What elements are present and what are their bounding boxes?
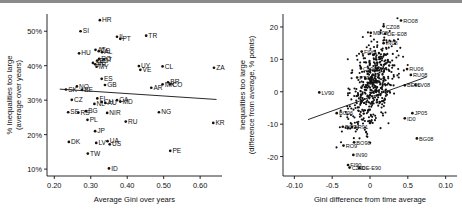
data-point — [94, 130, 97, 133]
x-tick-label: 0 — [368, 181, 372, 190]
data-point-label: PT — [122, 35, 130, 42]
data-point — [116, 35, 119, 38]
data-point — [416, 137, 419, 140]
data-point-label: NIR — [109, 109, 121, 116]
y-tick-label: 20 — [270, 23, 278, 32]
x-tick-label: 0.5 — [403, 181, 413, 190]
data-point — [81, 88, 84, 91]
data-point-label: JP05 — [415, 110, 428, 116]
data-point — [150, 86, 153, 89]
data-point-label: US — [112, 140, 122, 147]
data-point-label: HU — [81, 49, 91, 56]
y-tick-label: 0 — [274, 88, 278, 97]
data-point — [341, 125, 344, 128]
data-point-label: TW — [90, 150, 101, 157]
data-point-label: RO08 — [403, 18, 418, 24]
data-point-label: BO98 — [356, 140, 370, 146]
data-point — [356, 76, 359, 79]
data-point — [318, 91, 321, 94]
data-point — [212, 122, 215, 125]
data-point-label: KR — [215, 119, 224, 126]
data-point — [95, 142, 98, 145]
data-point-label: SK — [68, 86, 77, 93]
data-point-label: CL96 — [363, 66, 376, 72]
data-point — [414, 84, 417, 87]
x-tick-label: 0.30 — [84, 181, 98, 190]
data-point — [139, 68, 142, 71]
left-plot-svg: 0.200.300.400.500.6010%20%30%40%50%Avera… — [0, 0, 231, 214]
y-tick-label: -10 — [267, 120, 278, 129]
x-tick-label: 0.60 — [193, 181, 207, 190]
data-point-label: TR — [148, 32, 157, 39]
data-point — [360, 50, 363, 53]
data-point-label: JP — [97, 127, 105, 134]
data-point — [124, 120, 127, 123]
y-tick-label: 10 — [270, 55, 278, 64]
data-point-label: ZA — [216, 64, 225, 71]
y-axis-title-line: Inequalities too large — [238, 60, 247, 130]
right-plot-svg: -0.10-0.500.50.1020100-10-20Gini differe… — [231, 0, 462, 214]
data-point-label: AR91 — [354, 124, 368, 130]
data-point-label: MD — [122, 98, 132, 105]
x-tick-label: 0.50 — [156, 181, 170, 190]
data-point — [350, 126, 353, 129]
data-point — [101, 51, 104, 54]
data-point — [108, 167, 111, 170]
data-point — [100, 77, 103, 80]
data-point — [342, 144, 345, 147]
data-point-label: BE — [84, 86, 93, 93]
data-point — [369, 31, 372, 34]
data-point — [97, 50, 100, 53]
data-point — [347, 164, 350, 167]
data-point — [138, 65, 141, 68]
data-point — [400, 19, 403, 22]
data-point — [411, 112, 414, 115]
data-point — [78, 52, 81, 55]
data-point-label: SI — [83, 27, 89, 34]
data-point-label: BG08 — [419, 136, 433, 142]
data-point — [86, 152, 89, 155]
data-point — [384, 32, 387, 35]
y-axis-title-line: % Inequalities too large — [5, 56, 14, 135]
y-tick-label: -20 — [267, 153, 278, 162]
data-point — [106, 112, 109, 115]
data-point-label: AR — [153, 84, 162, 91]
data-point — [145, 34, 148, 37]
data-point — [403, 117, 406, 120]
axis-lines — [47, 14, 222, 176]
x-axis-title: Average Gini over years — [94, 195, 176, 204]
data-point-label: AU — [108, 99, 117, 106]
y-axis-title-line: (average over years) — [14, 59, 23, 130]
data-point — [93, 103, 96, 106]
y-tick-label: 50% — [27, 27, 42, 36]
data-point — [77, 111, 80, 114]
data-point-label: IN90 — [356, 152, 368, 158]
data-point — [335, 112, 338, 115]
data-point-label: DK — [71, 138, 81, 145]
data-point-label: DE-E08 — [387, 31, 407, 37]
y-axis-title-line: (difference from average, % points) — [247, 35, 256, 154]
data-point-label: RO9 — [346, 143, 358, 149]
data-point-label: PE — [172, 147, 181, 154]
data-point — [169, 149, 172, 152]
data-point — [106, 140, 109, 143]
data-point — [79, 30, 82, 33]
data-point-label: BG96 — [339, 110, 353, 116]
data-point — [158, 111, 161, 114]
data-point-label: ID — [111, 165, 118, 172]
data-point — [382, 25, 385, 28]
y-tick-label: 20% — [27, 131, 42, 140]
data-point — [213, 66, 216, 69]
y-tick-label: 40% — [27, 62, 42, 71]
data-point-label: NL — [97, 100, 106, 107]
data-point — [70, 98, 73, 101]
x-tick-label: 0.20 — [47, 181, 61, 190]
data-point — [161, 65, 164, 68]
data-point-label: MY — [99, 63, 109, 70]
data-point — [348, 166, 351, 169]
data-point-label: LV90 — [322, 90, 335, 96]
data-point — [86, 118, 89, 121]
data-point-label: VE — [143, 66, 152, 73]
data-point — [104, 84, 107, 87]
data-point-label: ID0 — [407, 116, 416, 122]
